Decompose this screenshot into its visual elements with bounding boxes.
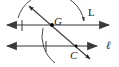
arc-at-G (18, 0, 84, 21)
label-point-C: C (70, 50, 77, 61)
transversal-line (29, 6, 90, 59)
label-line-L: L (88, 7, 95, 18)
point-C (75, 45, 78, 48)
geometry-figure: L G C ℓ (0, 0, 119, 67)
label-point-G: G (54, 16, 62, 27)
geometry-canvas (0, 0, 119, 67)
label-line-ell: ℓ (106, 40, 111, 51)
